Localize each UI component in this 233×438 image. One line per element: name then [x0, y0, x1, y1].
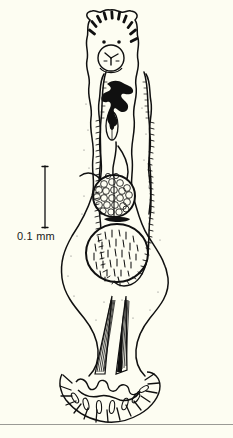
parasite-line-drawing: [0, 0, 233, 438]
figure-container: 0.1 mm: [0, 0, 233, 438]
ventral-sucker-ovoid: [86, 224, 148, 282]
footer-divider: [0, 424, 233, 425]
scale-bar-label: 0.1 mm: [17, 230, 55, 242]
